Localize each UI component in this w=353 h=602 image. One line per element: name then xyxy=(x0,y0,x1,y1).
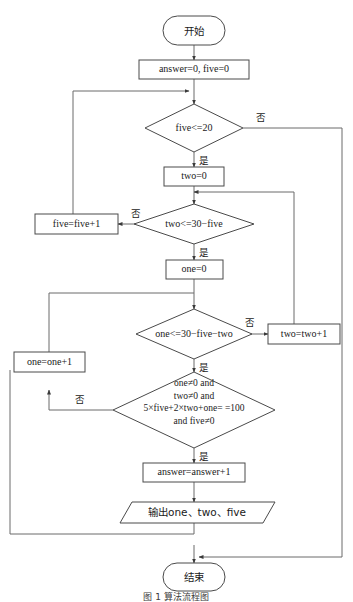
node-cond-two[interactable]: two<=30−five xyxy=(134,204,254,244)
node-cond-check-line3: 5×five+2×two+one= =100 xyxy=(143,403,244,413)
node-one-inc-label: one=one+1 xyxy=(27,356,72,367)
node-cond-check-line4: and five≠0 xyxy=(174,416,215,426)
node-two-init[interactable]: two=0 xyxy=(164,167,224,186)
node-five-inc[interactable]: five=five+1 xyxy=(35,214,118,234)
node-one-inc[interactable]: one=one+1 xyxy=(14,352,85,372)
node-one-init-label: one=0 xyxy=(181,263,206,274)
node-two-inc-label: two=two+1 xyxy=(281,328,327,339)
node-one-init[interactable]: one=0 xyxy=(166,260,223,279)
branch-label-cond-check-no: 否 xyxy=(75,394,85,405)
branch-label-cond-check-yes: 是 xyxy=(199,451,209,462)
node-start-label: 开始 xyxy=(184,25,205,37)
node-cond-five-label: five<=20 xyxy=(176,122,213,133)
flowchart-page: 开始 answer=0, five=0 five<=20 否 是 two=0 f… xyxy=(0,0,353,602)
node-answer-inc-label: answer=answer+1 xyxy=(158,466,231,477)
branch-label-cond-five-yes: 是 xyxy=(199,155,209,166)
node-init-label: answer=0, five=0 xyxy=(159,63,229,74)
figure-caption: 图 1 算法流程图 xyxy=(143,591,208,602)
flowchart-canvas: 开始 answer=0, five=0 five<=20 否 是 two=0 f… xyxy=(0,0,353,602)
node-cond-one-label: one<=30−five−two xyxy=(155,328,233,339)
connector-five-inc-loop xyxy=(73,91,189,216)
node-start[interactable]: 开始 xyxy=(163,16,225,45)
node-end-label: 结束 xyxy=(184,571,205,583)
node-cond-one[interactable]: one<=30−five−two xyxy=(136,309,252,359)
node-end[interactable]: 结束 xyxy=(163,563,225,591)
node-output[interactable]: 输出one、two、five xyxy=(120,502,275,523)
node-two-inc[interactable]: two=two+1 xyxy=(268,324,340,344)
branch-label-cond-five-no: 否 xyxy=(256,112,266,123)
node-five-inc-label: five=five+1 xyxy=(53,218,100,229)
branch-label-cond-one-no: 否 xyxy=(245,317,255,328)
node-cond-check[interactable]: one≠0 and two≠0 and 5×five+2×two+one= =1… xyxy=(113,372,275,448)
node-cond-two-label: two<=30−five xyxy=(165,218,223,229)
node-cond-five[interactable]: five<=20 xyxy=(145,104,243,152)
node-output-label: 输出one、two、five xyxy=(148,506,246,518)
branch-label-cond-one-yes: 是 xyxy=(199,362,209,373)
node-cond-check-line2: two≠0 and xyxy=(174,391,215,401)
node-cond-check-line1: one≠0 and xyxy=(174,378,214,388)
node-answer-inc[interactable]: answer=answer+1 xyxy=(143,463,245,482)
node-init[interactable]: answer=0, five=0 xyxy=(139,60,249,79)
branch-label-cond-two-yes: 是 xyxy=(199,247,209,258)
node-two-init-label: two=0 xyxy=(181,170,207,181)
branch-label-cond-two-no: 否 xyxy=(131,208,141,219)
